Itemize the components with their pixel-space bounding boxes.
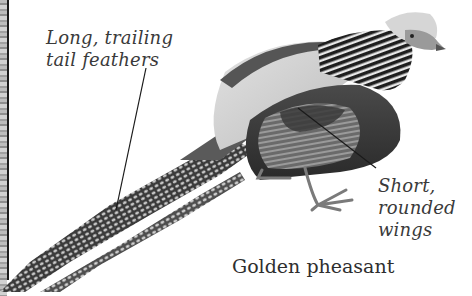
tail-annotation-line-2: tail feathers: [46, 49, 173, 71]
wings-annotation-line-1: Short,: [378, 175, 456, 197]
wings-annotation: Short, rounded wings: [378, 175, 456, 241]
figure-caption: Golden pheasant: [232, 255, 394, 277]
tail-annotation-line-1: Long, trailing: [46, 27, 173, 49]
tail-annotation: Long, trailing tail feathers: [46, 27, 173, 71]
wings-annotation-line-2: rounded: [378, 197, 456, 219]
illustration: Long, trailing tail feathers Short, roun…: [0, 0, 472, 296]
wings-annotation-line-3: wings: [378, 219, 456, 241]
eye: [410, 34, 414, 38]
